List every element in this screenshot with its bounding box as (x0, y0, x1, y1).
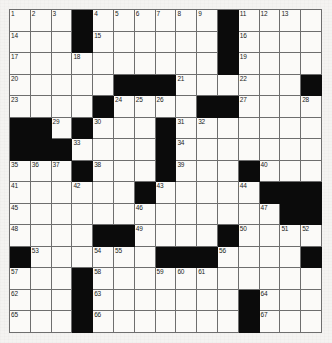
grid-cell[interactable] (52, 53, 73, 75)
grid-cell[interactable] (135, 53, 156, 75)
grid-cell[interactable] (239, 204, 260, 226)
grid-cell[interactable] (114, 53, 135, 75)
grid-cell[interactable]: 60 (176, 268, 197, 290)
grid-cell[interactable] (72, 96, 93, 118)
grid-cell[interactable] (72, 247, 93, 269)
grid-cell[interactable] (197, 311, 218, 333)
grid-cell[interactable]: 13 (280, 10, 301, 32)
grid-cell[interactable]: 65 (10, 311, 31, 333)
grid-cell[interactable] (156, 53, 177, 75)
grid-cell[interactable] (31, 96, 52, 118)
grid-cell[interactable] (239, 139, 260, 161)
grid-cell[interactable] (301, 118, 322, 140)
grid-cell[interactable] (280, 75, 301, 97)
grid-cell[interactable] (218, 204, 239, 226)
grid-cell[interactable]: 27 (239, 96, 260, 118)
grid-cell[interactable]: 39 (176, 161, 197, 183)
grid-cell[interactable]: 29 (52, 118, 73, 140)
grid-cell[interactable]: 46 (135, 204, 156, 226)
grid-cell[interactable]: 50 (239, 225, 260, 247)
grid-cell[interactable] (280, 32, 301, 54)
grid-cell[interactable]: 14 (10, 32, 31, 54)
grid-cell[interactable]: 66 (93, 311, 114, 333)
grid-cell[interactable]: 6 (135, 10, 156, 32)
grid-cell[interactable]: 32 (197, 118, 218, 140)
grid-cell[interactable] (260, 139, 281, 161)
grid-cell[interactable]: 47 (260, 204, 281, 226)
grid-cell[interactable] (197, 139, 218, 161)
crossword-grid[interactable]: 1234567891112131415161718192021222324252… (9, 9, 322, 333)
grid-cell[interactable]: 53 (31, 247, 52, 269)
grid-cell[interactable]: 55 (114, 247, 135, 269)
grid-cell[interactable] (52, 204, 73, 226)
grid-cell[interactable] (301, 161, 322, 183)
grid-cell[interactable]: 2 (31, 10, 52, 32)
grid-cell[interactable] (218, 75, 239, 97)
grid-cell[interactable] (114, 204, 135, 226)
grid-cell[interactable] (176, 96, 197, 118)
grid-cell[interactable] (156, 32, 177, 54)
grid-cell[interactable]: 49 (135, 225, 156, 247)
grid-cell[interactable]: 3 (52, 10, 73, 32)
grid-cell[interactable] (218, 311, 239, 333)
grid-cell[interactable] (114, 118, 135, 140)
grid-cell[interactable] (280, 311, 301, 333)
grid-cell[interactable] (52, 225, 73, 247)
grid-cell[interactable] (176, 225, 197, 247)
grid-cell[interactable] (218, 118, 239, 140)
grid-cell[interactable] (280, 161, 301, 183)
grid-cell[interactable] (301, 10, 322, 32)
grid-cell[interactable]: 31 (176, 118, 197, 140)
grid-cell[interactable] (93, 204, 114, 226)
grid-cell[interactable] (135, 139, 156, 161)
grid-cell[interactable]: 52 (301, 225, 322, 247)
grid-cell[interactable] (135, 268, 156, 290)
grid-cell[interactable] (260, 96, 281, 118)
grid-cell[interactable] (31, 32, 52, 54)
grid-cell[interactable] (239, 118, 260, 140)
grid-cell[interactable] (114, 268, 135, 290)
grid-cell[interactable] (156, 204, 177, 226)
grid-cell[interactable] (52, 247, 73, 269)
grid-cell[interactable]: 67 (260, 311, 281, 333)
grid-cell[interactable]: 25 (135, 96, 156, 118)
grid-cell[interactable] (52, 75, 73, 97)
grid-cell[interactable] (280, 118, 301, 140)
grid-cell[interactable] (197, 161, 218, 183)
grid-cell[interactable]: 62 (10, 290, 31, 312)
grid-cell[interactable] (52, 182, 73, 204)
grid-cell[interactable]: 48 (10, 225, 31, 247)
grid-cell[interactable] (260, 268, 281, 290)
grid-cell[interactable]: 11 (239, 10, 260, 32)
grid-cell[interactable]: 34 (176, 139, 197, 161)
grid-cell[interactable] (135, 311, 156, 333)
grid-cell[interactable] (176, 311, 197, 333)
grid-cell[interactable] (239, 268, 260, 290)
grid-cell[interactable] (114, 32, 135, 54)
grid-cell[interactable] (239, 247, 260, 269)
grid-cell[interactable] (301, 139, 322, 161)
grid-cell[interactable] (176, 53, 197, 75)
grid-cell[interactable] (31, 182, 52, 204)
grid-cell[interactable]: 28 (301, 96, 322, 118)
grid-cell[interactable] (280, 268, 301, 290)
grid-cell[interactable] (260, 53, 281, 75)
grid-cell[interactable]: 40 (260, 161, 281, 183)
grid-cell[interactable]: 26 (156, 96, 177, 118)
grid-cell[interactable] (114, 290, 135, 312)
grid-cell[interactable] (301, 32, 322, 54)
grid-cell[interactable] (31, 75, 52, 97)
grid-cell[interactable]: 12 (260, 10, 281, 32)
grid-cell[interactable]: 44 (239, 182, 260, 204)
grid-cell[interactable] (156, 225, 177, 247)
grid-cell[interactable] (31, 225, 52, 247)
grid-cell[interactable]: 51 (280, 225, 301, 247)
grid-cell[interactable] (135, 32, 156, 54)
grid-cell[interactable]: 8 (176, 10, 197, 32)
grid-cell[interactable]: 24 (114, 96, 135, 118)
grid-cell[interactable] (72, 75, 93, 97)
grid-cell[interactable] (31, 53, 52, 75)
grid-cell[interactable]: 5 (114, 10, 135, 32)
grid-cell[interactable] (114, 311, 135, 333)
grid-cell[interactable] (52, 311, 73, 333)
